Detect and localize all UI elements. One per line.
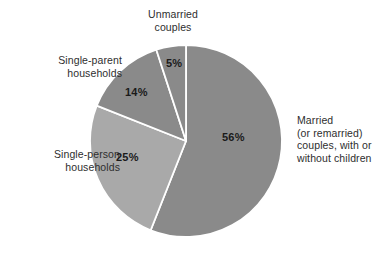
slice-label-single-person-households: Single-person households (2, 148, 120, 173)
slice-label-unmarried-couples: Unmarried couples (122, 8, 224, 33)
slice-value-married-couples: 56% (222, 131, 245, 143)
pie-chart: Unmarried couples Single-parent househol… (0, 0, 390, 253)
slice-value-single-person-households: 25% (116, 151, 139, 163)
slice-value-unmarried-couples: 5% (166, 57, 182, 69)
slice-value-single-parent-households: 14% (125, 86, 148, 98)
slice-label-single-parent-households: Single-parent households (14, 54, 122, 79)
slice-label-married-couples: Married (or remarried) couples, with or … (297, 114, 389, 164)
